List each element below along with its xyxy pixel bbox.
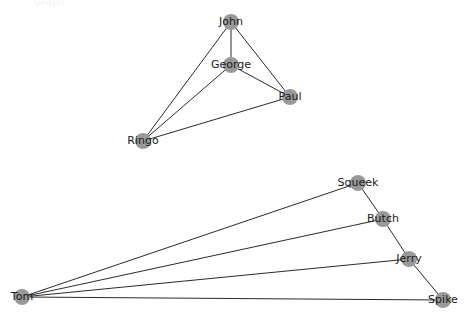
node-label-tom: Tom: [10, 290, 33, 303]
graph-edge-tom-butch: [22, 219, 383, 297]
graph-node-spike[interactable]: Spike: [428, 292, 458, 308]
nodes-layer: JohnGeorgePaulRingoSqueekButchJerryTomSp…: [10, 14, 458, 308]
node-label-spike: Spike: [428, 293, 458, 306]
graph-edge-tom-jerry: [22, 259, 409, 297]
node-label-paul: Paul: [279, 90, 302, 103]
node-group-tom-and-jerry-graph: SqueekButchJerryTomSpike: [10, 175, 458, 308]
node-group-beatles-graph: JohnGeorgePaulRingo: [127, 14, 301, 149]
graph-node-george[interactable]: George: [211, 57, 251, 73]
graph-edge-tom-spike: [22, 297, 443, 300]
graph-node-butch[interactable]: Butch: [367, 211, 399, 227]
node-label-george: George: [211, 58, 251, 71]
node-label-squeek: Squeek: [338, 176, 379, 189]
graph-node-jerry[interactable]: Jerry: [395, 251, 422, 267]
node-label-ringo: Ringo: [127, 134, 159, 147]
graph-canvas: Graph JohnGeorgePaulRingoSqueekButchJerr…: [0, 0, 468, 319]
edge-group-tom-and-jerry-graph: [22, 183, 443, 300]
graph-edge-george-ringo: [143, 65, 231, 141]
graph-node-squeek[interactable]: Squeek: [338, 175, 379, 191]
graph-edge-john-ringo: [143, 22, 231, 141]
graph-edge-tom-squeek: [22, 183, 358, 297]
node-label-butch: Butch: [367, 212, 399, 225]
node-label-john: John: [218, 15, 243, 28]
graph-edge-ringo-paul: [143, 97, 290, 141]
node-label-jerry: Jerry: [395, 252, 422, 265]
network-graph-figure: JohnGeorgePaulRingoSqueekButchJerryTomSp…: [0, 0, 468, 319]
edge-group-beatles-graph: [143, 22, 290, 141]
graph-node-john[interactable]: John: [218, 14, 243, 30]
graph-node-paul[interactable]: Paul: [279, 89, 302, 105]
graph-node-tom[interactable]: Tom: [10, 289, 33, 305]
graph-node-ringo[interactable]: Ringo: [127, 133, 159, 149]
